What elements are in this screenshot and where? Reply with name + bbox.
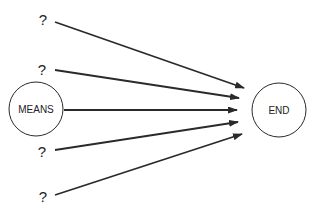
means-end-diagram: MEANS END ? ? ? ?: [0, 0, 326, 218]
unknown-1-label: ?: [39, 11, 47, 28]
arrow-unknown-4-to-end: [55, 134, 242, 195]
means-label: MEANS: [18, 104, 54, 115]
end-node: END: [252, 83, 306, 137]
unknown-3-label: ?: [38, 143, 46, 160]
end-label: END: [268, 105, 289, 116]
means-node: MEANS: [9, 82, 63, 136]
arrow-unknown-3-to-end: [55, 122, 238, 150]
arrow-unknown-1-to-end: [55, 22, 244, 88]
unknown-2-label: ?: [38, 61, 46, 78]
arrow-unknown-2-to-end: [55, 70, 239, 98]
unknown-4-label: ?: [39, 188, 47, 205]
